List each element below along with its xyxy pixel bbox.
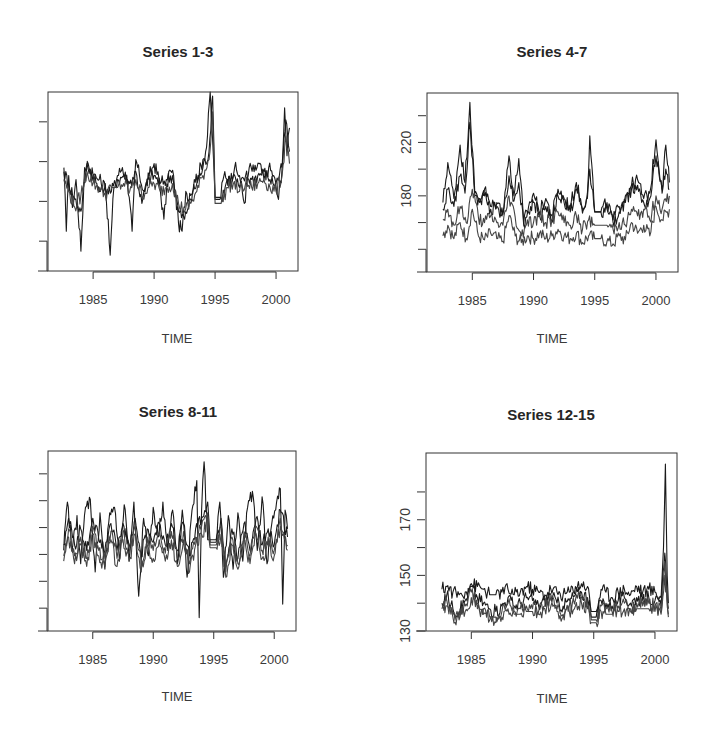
x-tick-label: 2000 xyxy=(641,652,670,667)
series-lines xyxy=(443,102,670,246)
x-tick-label: 1995 xyxy=(579,652,608,667)
x-tick-label: 2000 xyxy=(642,293,671,308)
x-tick-label: 1985 xyxy=(458,293,487,308)
series-line xyxy=(64,92,290,255)
y-axis: 130150170 xyxy=(397,492,426,643)
y-tick-label: 150 xyxy=(397,563,413,587)
y-tick-label: 180 xyxy=(398,184,414,208)
x-tick-label: 1985 xyxy=(78,652,107,667)
x-tick-label: 1995 xyxy=(201,292,230,307)
x-tick-label: 1990 xyxy=(518,652,547,667)
series-lines xyxy=(64,92,290,255)
series-line xyxy=(64,96,290,219)
x-axis-label: TIME xyxy=(374,691,712,706)
series-line xyxy=(442,464,669,611)
series-lines xyxy=(442,464,669,626)
x-tick-label: 1995 xyxy=(199,652,228,667)
y-tick-label: 220 xyxy=(398,131,414,155)
x-tick-label: 1990 xyxy=(140,292,169,307)
plot-area: 1985199019952000180220 xyxy=(356,0,712,373)
panel-series-4-7: Series 4-7 1985199019952000180220 TIME xyxy=(356,0,712,373)
series-line xyxy=(64,112,290,214)
x-tick-label: 1985 xyxy=(79,292,108,307)
x-tick-label: 1995 xyxy=(580,293,609,308)
y-tick-label: 130 xyxy=(397,619,413,643)
x-axis: 1985199019952000 xyxy=(457,632,670,667)
x-axis-label: TIME xyxy=(0,331,355,346)
y-tick-label: 170 xyxy=(397,508,413,532)
x-tick-label: 1985 xyxy=(457,652,486,667)
x-tick-label: 2000 xyxy=(260,652,289,667)
x-axis-label: TIME xyxy=(0,689,355,704)
x-tick-label: 2000 xyxy=(262,292,291,307)
y-axis xyxy=(38,122,48,271)
x-axis: 1985199019952000 xyxy=(79,272,291,307)
panel-series-12-15: Series 12-15 1985199019952000130150170 T… xyxy=(356,373,712,746)
x-tick-label: 1990 xyxy=(519,293,548,308)
plot-area: 1985199019952000 xyxy=(0,0,356,373)
x-axis: 1985199019952000 xyxy=(78,632,288,667)
y-axis xyxy=(38,474,48,631)
x-axis-label: TIME xyxy=(374,331,712,346)
panel-series-8-11: Series 8-11 1985199019952000 TIME xyxy=(0,373,356,746)
series-lines xyxy=(64,462,288,618)
panel-series-1-3: Series 1-3 1985199019952000 TIME xyxy=(0,0,356,373)
series-line xyxy=(64,462,288,618)
series-line xyxy=(443,122,670,227)
x-axis: 1985199019952000 xyxy=(458,273,671,308)
x-tick-label: 1990 xyxy=(139,652,168,667)
y-axis: 180220 xyxy=(398,116,427,272)
series-line xyxy=(443,206,670,246)
